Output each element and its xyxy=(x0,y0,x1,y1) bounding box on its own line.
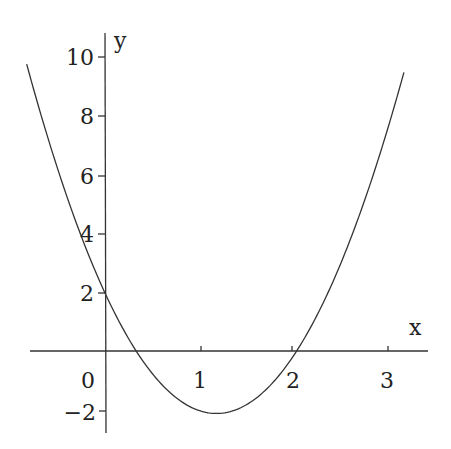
y-axis-label: y xyxy=(113,28,127,53)
y-tick-label-10: 10 xyxy=(66,45,94,70)
y-tick-label-6: 6 xyxy=(80,164,94,189)
x-tick-label-3: 3 xyxy=(380,368,394,393)
x-tick-label-0: 0 xyxy=(81,368,95,393)
x-tick-label-2: 2 xyxy=(286,368,300,393)
y-tick-label-4: 4 xyxy=(80,222,94,247)
x-axis-label: x xyxy=(409,315,422,340)
plot-area: y x 10 8 6 4 2 −2 0 1 2 3 xyxy=(0,0,451,449)
chart: y x 10 8 6 4 2 −2 0 1 2 3 xyxy=(0,0,451,449)
x-tick-label-1: 1 xyxy=(193,368,207,393)
y-tick-label-8: 8 xyxy=(80,104,94,129)
y-tick-label-neg2: −2 xyxy=(64,400,96,425)
y-axis xyxy=(105,33,106,433)
y-tick-label-2: 2 xyxy=(80,281,94,306)
